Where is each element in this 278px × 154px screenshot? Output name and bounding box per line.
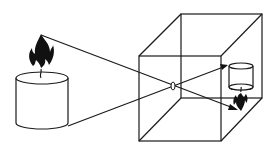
inverted-image xyxy=(229,63,253,111)
candle-object xyxy=(16,34,68,129)
candle-top xyxy=(16,72,68,84)
arrowhead-icon xyxy=(228,104,238,110)
candle-body xyxy=(16,78,68,129)
pinhole xyxy=(171,82,175,90)
candle-wick xyxy=(40,69,41,78)
diagram-canvas xyxy=(0,0,278,154)
box-edge-top-left xyxy=(139,14,181,56)
box-edge-top-right xyxy=(221,14,262,56)
inverted-wick xyxy=(241,87,242,92)
pinhole-camera-diagram xyxy=(0,0,278,154)
box-edge-bottom-left xyxy=(139,98,181,141)
inverted-candle-bottom xyxy=(229,63,253,69)
